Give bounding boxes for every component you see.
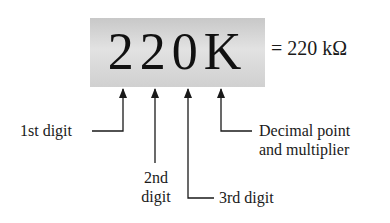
- label-multiplier-line1: Decimal point: [259, 121, 350, 140]
- label-multiplier-line2: and multiplier: [259, 140, 349, 159]
- label-third-digit: 3rd digit: [219, 188, 274, 207]
- arrow-multiplier: [221, 89, 252, 131]
- label-second-digit-line2: digit: [136, 187, 176, 206]
- arrow-first-digit: [92, 89, 123, 131]
- pointer-arrows: [0, 0, 390, 223]
- label-first-digit: 1st digit: [20, 121, 72, 140]
- label-second-digit-line1: 2nd: [136, 168, 176, 187]
- arrow-third-digit: [188, 89, 214, 198]
